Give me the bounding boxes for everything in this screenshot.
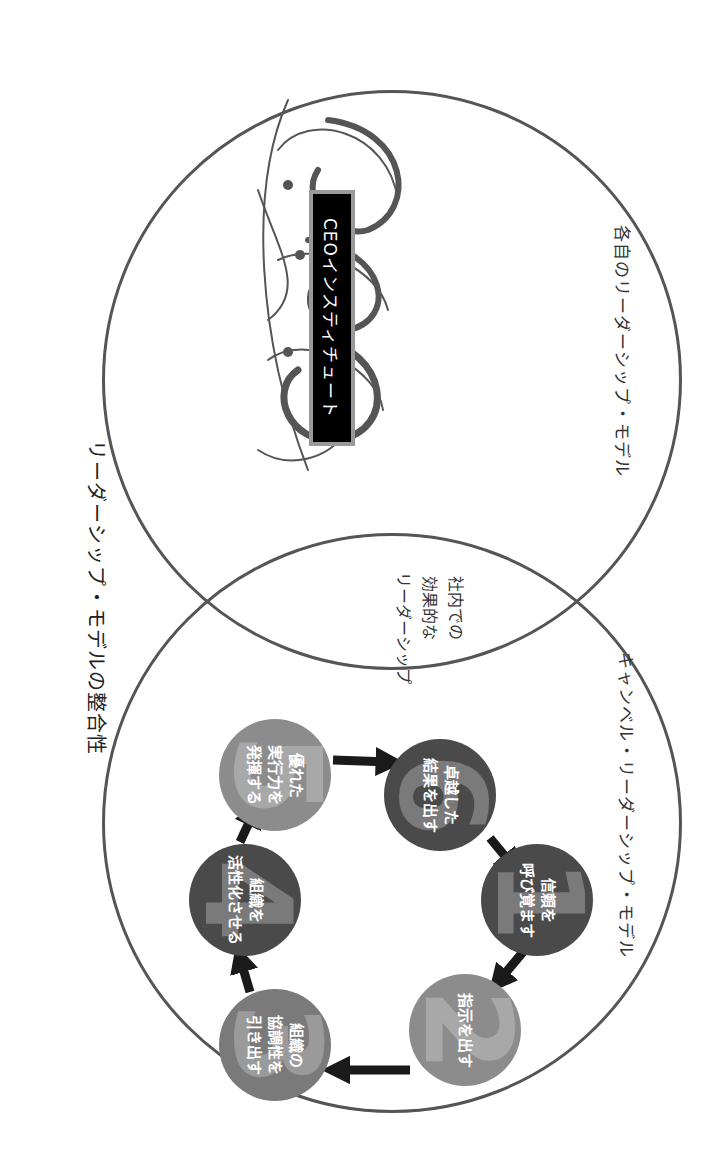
step-text: 実行力を (265, 745, 286, 805)
arrow-5-to-6 (333, 760, 390, 762)
step-text: 組織の (286, 1015, 307, 1075)
step-circle-2: 2 指示を出す (409, 974, 521, 1086)
step-text: 結果を出す (419, 758, 440, 833)
rotated-diagram: 各自のリーダーシップ・モデル キャンベル・リーダーシップ・モデル 社内での 効果… (0, 0, 728, 1172)
step-circle-6: 6 卓越した 結果を出す (384, 739, 496, 851)
step-text: 協調性を (265, 1015, 286, 1075)
step-text: 発揮する (244, 745, 265, 805)
step-text: 引き出す (244, 1015, 265, 1075)
step-text: 指示を出す (455, 993, 476, 1068)
step-text: 卓越した (440, 758, 461, 833)
step-text: 呼び覚ます (516, 863, 537, 938)
step-circle-1: 1 信頼を 呼び覚ます (481, 844, 593, 956)
step-text: 活性化させる (224, 855, 245, 945)
step-circle-4: 4 組織を 活性化させる (189, 844, 301, 956)
arrow-1-to-2 (498, 952, 523, 982)
step-text: 信頼を (537, 863, 558, 938)
arrow-3-to-4 (240, 958, 250, 992)
step-circle-5: 5 優れた 実行力を 発揮する (219, 719, 331, 831)
cycle-arrows (0, 0, 728, 1172)
step-text: 優れた (286, 745, 307, 805)
step-circle-3: 3 組織の 協調性を 引き出す (219, 989, 331, 1101)
step-text: 組織を (245, 855, 266, 945)
